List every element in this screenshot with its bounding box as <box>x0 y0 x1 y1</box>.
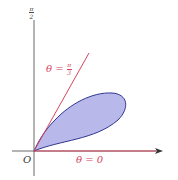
theta-prefix: θ = <box>46 63 67 74</box>
label-theta-0: θ = 0 <box>76 155 103 165</box>
polar-diagram <box>0 0 178 180</box>
shaded-petal <box>34 93 126 151</box>
label-pi-over-2: π 2 <box>29 4 34 20</box>
label-origin: O <box>23 155 31 165</box>
frac-den: 2 <box>30 14 34 20</box>
frac-num: π <box>30 6 34 12</box>
frac-den: 3 <box>67 70 71 76</box>
label-theta-pi-over-3: θ = π 3 <box>46 62 72 76</box>
frac-num: π <box>67 62 71 68</box>
